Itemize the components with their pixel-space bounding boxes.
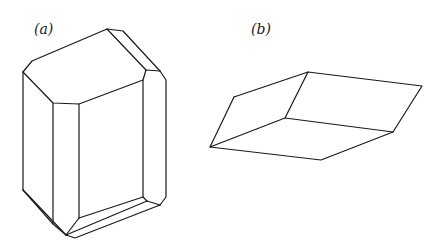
crystal-b [210,72,422,160]
crystal-drawings [0,0,443,244]
crystal-figure: (a) (b) [0,0,443,244]
crystal-a [23,29,166,238]
